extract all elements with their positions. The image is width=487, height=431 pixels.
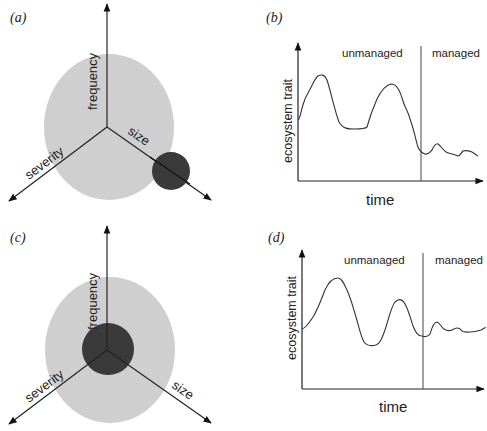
panel-c-label: (c): [10, 230, 26, 246]
d-xlabel: time: [379, 398, 407, 415]
d-unmanaged-label: unmanaged: [344, 254, 405, 266]
panel-b-label: (b): [266, 10, 283, 26]
panel-d: (d) unmanaged managed ecosystem trait ti…: [268, 230, 486, 415]
frequency-label: frequency: [85, 272, 100, 330]
d-ylabel: ecosystem trait: [285, 275, 299, 360]
b-trait-curve: [298, 75, 478, 156]
panel-b: (b) unmanaged managed ecosystem trait ti…: [266, 10, 483, 208]
b-unmanaged-label: unmanaged: [342, 47, 403, 59]
d-trait-curve: [302, 278, 486, 346]
size-label: size: [169, 377, 197, 403]
panel-a: (a) frequency size severity: [9, 4, 211, 201]
d-managed-label: managed: [435, 254, 483, 266]
panel-a-label: (a): [10, 10, 27, 26]
figure: (a) frequency size severity (b) unmanage…: [0, 0, 487, 431]
panel-c: (c) frequency size severity: [9, 226, 211, 424]
b-managed-label: managed: [432, 47, 480, 59]
panel-d-label: (d): [268, 230, 285, 246]
b-xlabel: time: [366, 191, 394, 208]
frequency-label: frequency: [85, 52, 100, 110]
b-ylabel: ecosystem trait: [281, 78, 295, 163]
